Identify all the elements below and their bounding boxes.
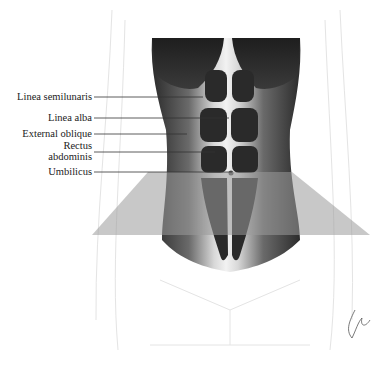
label-linea-semilunaris: Linea semilunaris	[17, 91, 92, 102]
gray-overlay	[92, 172, 370, 235]
label-umbilicus: Umbilicus	[48, 166, 92, 177]
label-rectus-abdominis: Rectus abdominis	[48, 140, 92, 162]
torso-illustration	[0, 0, 390, 365]
label-linea-alba: Linea alba	[48, 112, 92, 123]
label-external-oblique: External oblique	[22, 128, 92, 139]
anatomy-figure: Linea semilunaris Linea alba External ob…	[0, 0, 390, 365]
